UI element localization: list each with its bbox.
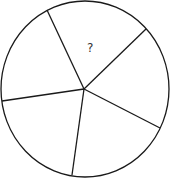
sector-divider-line	[84, 89, 160, 128]
sector-divider-line	[47, 10, 84, 89]
sector-divider-line	[2, 89, 84, 101]
sector-divider-line	[84, 29, 146, 89]
sector-circle-diagram	[0, 0, 170, 181]
unknown-sector-label: ?	[87, 42, 93, 54]
sector-divider-line	[72, 89, 84, 175]
sector-dividers	[2, 10, 160, 175]
